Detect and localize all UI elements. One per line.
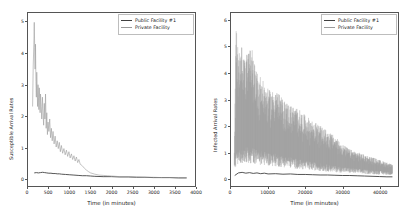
y-tickmark xyxy=(25,148,27,149)
x-tickmark xyxy=(27,187,28,189)
x-tick-label: 500 xyxy=(44,190,53,195)
x-axis-label-susceptible: Time (in minutes) xyxy=(27,200,196,206)
y-tickmark xyxy=(228,126,230,127)
y-tickmark xyxy=(25,85,27,86)
x-tick-label: 3000 xyxy=(148,190,160,195)
x-tickmark xyxy=(268,187,269,189)
y-tick-label: 4 xyxy=(218,70,227,75)
legend-swatch-public-icon xyxy=(121,20,132,21)
plot-area-susceptible xyxy=(28,13,195,186)
x-tick-label: 30000 xyxy=(335,190,350,195)
legend-entry-public: Public Facility #1 xyxy=(324,17,393,24)
x-tickmark xyxy=(133,187,134,189)
y-tick-label: 0 xyxy=(218,177,227,182)
panel-infected: Infected Arrival Rates Time (in minutes)… xyxy=(203,0,406,221)
y-tickmark xyxy=(228,153,230,154)
legend-label-private: Private Facility xyxy=(135,24,170,31)
x-tickmark xyxy=(175,187,176,189)
legend-label-public: Public Facility #1 xyxy=(338,17,379,24)
panel-susceptible: Susceptible Arrival Rates Time (in minut… xyxy=(0,0,203,221)
x-tickmark xyxy=(112,187,113,189)
x-tick-label: 1000 xyxy=(63,190,75,195)
x-tickmark xyxy=(69,187,70,189)
x-tick-label: 20000 xyxy=(298,190,313,195)
y-tick-label: 6 xyxy=(218,17,227,22)
legend-entry-public: Public Facility #1 xyxy=(121,17,190,24)
series-band-strokes xyxy=(234,31,392,175)
y-tickmark xyxy=(25,21,27,22)
legend-entry-private: Private Facility xyxy=(121,24,190,31)
y-tickmark xyxy=(228,73,230,74)
x-axis-label-infected: Time (in minutes) xyxy=(230,200,399,206)
y-tick-label: 1 xyxy=(218,150,227,155)
y-tickmark xyxy=(25,179,27,180)
y-axis-label-susceptible: Susceptible Arrival Rates xyxy=(8,98,14,160)
legend-infected: Public Facility #1 Private Facility xyxy=(321,14,397,35)
x-tickmark xyxy=(230,187,231,189)
y-tickmark xyxy=(228,100,230,101)
legend-susceptible: Public Facility #1 Private Facility xyxy=(118,14,194,35)
x-tick-label: 1500 xyxy=(85,190,97,195)
x-tick-label: 3500 xyxy=(169,190,181,195)
axes-susceptible xyxy=(27,12,196,187)
x-tickmark xyxy=(380,187,381,189)
legend-swatch-private-icon xyxy=(324,27,335,28)
plot-area-infected xyxy=(231,13,398,186)
y-tick-label: 5 xyxy=(218,44,227,49)
figure-two-panel-chart: Susceptible Arrival Rates Time (in minut… xyxy=(0,0,406,221)
y-tick-label: 4 xyxy=(15,50,24,55)
series-band-private-facility xyxy=(234,31,392,175)
y-tick-label: 3 xyxy=(218,97,227,102)
y-tickmark xyxy=(228,179,230,180)
y-tick-label: 3 xyxy=(15,82,24,87)
axes-infected xyxy=(230,12,399,187)
x-tick-label: 2500 xyxy=(127,190,139,195)
legend-label-private: Private Facility xyxy=(338,24,373,31)
y-tickmark xyxy=(228,20,230,21)
x-tickmark xyxy=(48,187,49,189)
legend-swatch-public-icon xyxy=(324,20,335,21)
y-tickmark xyxy=(25,116,27,117)
x-tick-label: 4000 xyxy=(190,190,202,195)
y-tick-label: 0 xyxy=(15,177,24,182)
x-tickmark xyxy=(343,187,344,189)
y-tick-label: 1 xyxy=(15,145,24,150)
x-tick-label: 40000 xyxy=(373,190,388,195)
x-tick-label: 0 xyxy=(229,190,232,195)
x-tickmark xyxy=(90,187,91,189)
x-tickmark xyxy=(305,187,306,189)
x-tick-label: 0 xyxy=(26,190,29,195)
legend-swatch-private-icon xyxy=(121,27,132,28)
y-tick-label: 2 xyxy=(218,124,227,129)
series-line-private-facility xyxy=(33,22,187,178)
x-tickmark xyxy=(154,187,155,189)
x-tick-label: 10000 xyxy=(260,190,275,195)
y-tick-label: 5 xyxy=(15,19,24,24)
legend-label-public: Public Facility #1 xyxy=(135,17,176,24)
x-tickmark xyxy=(196,187,197,189)
legend-entry-private: Private Facility xyxy=(324,24,393,31)
x-tick-label: 2000 xyxy=(106,190,118,195)
y-tick-label: 2 xyxy=(15,114,24,119)
y-tickmark xyxy=(228,46,230,47)
y-tickmark xyxy=(25,53,27,54)
series-line-public-facility-1 xyxy=(34,172,186,178)
